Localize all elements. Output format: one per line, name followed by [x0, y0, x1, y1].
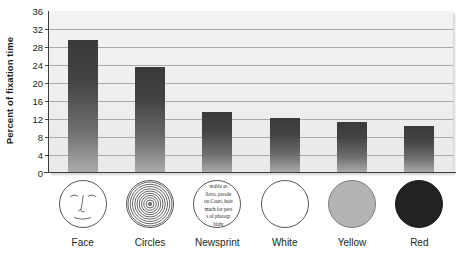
symbol-cell-face: Face — [49, 180, 116, 263]
category-symbols-row: FaceCirclesntable asllova, paradetre Cou… — [49, 180, 453, 263]
y-axis-tick-20: 20 — [21, 78, 43, 89]
plot-area — [49, 11, 453, 173]
y-axis-tick-12: 12 — [21, 114, 43, 125]
symbol-cell-circles: Circles — [116, 180, 183, 263]
newsprint-text: ntable asllova, paradetre Court, hoismuc… — [193, 183, 241, 228]
symbol-cell-white: White — [251, 180, 318, 263]
category-label-face: Face — [49, 237, 116, 248]
bar-newsprint — [202, 112, 232, 173]
symbol-cell-newsprint: ntable asllova, paradetre Court, hoismuc… — [184, 180, 251, 263]
y-axis-tick-28: 28 — [21, 42, 43, 53]
bar-chart: Percent of fixation time 363228242016128… — [0, 0, 462, 263]
y-axis-title: Percent of fixation time — [0, 0, 20, 180]
bar-yellow — [337, 122, 367, 173]
concentric-circles-icon — [126, 180, 174, 228]
y-axis-tick-0: 0 — [21, 168, 43, 179]
y-axis-tick-24: 24 — [21, 60, 43, 71]
category-label-newsprint: Newsprint — [184, 237, 251, 248]
x-axis-line — [44, 172, 456, 173]
y-axis-tick-labels: 36322824201612840 — [20, 0, 46, 180]
y-axis-line — [48, 11, 49, 173]
y-axis-tick-8: 8 — [21, 132, 43, 143]
face-icon — [59, 180, 107, 228]
y-axis-tick-4: 4 — [21, 150, 43, 161]
symbol-cell-yellow: Yellow — [318, 180, 385, 263]
category-label-white: White — [251, 237, 318, 248]
category-label-red: Red — [386, 237, 453, 248]
bar-face — [68, 40, 98, 173]
yellow-circle-icon — [328, 180, 376, 228]
y-axis-tick-36: 36 — [21, 6, 43, 17]
bars-group — [49, 11, 453, 173]
category-label-circles: Circles — [116, 237, 183, 248]
y-axis-title-text: Percent of fixation time — [5, 36, 16, 143]
y-axis-tick-16: 16 — [21, 96, 43, 107]
bar-white — [270, 118, 300, 173]
y-axis-tick-32: 32 — [21, 24, 43, 35]
symbol-cell-red: Red — [386, 180, 453, 263]
red-circle-icon — [395, 180, 443, 228]
category-label-yellow: Yellow — [318, 237, 385, 248]
bar-circles — [135, 67, 165, 173]
bar-red — [404, 126, 434, 173]
white-circle-icon — [261, 180, 309, 228]
newsprint-icon: ntable asllova, paradetre Court, hoismuc… — [193, 180, 241, 228]
